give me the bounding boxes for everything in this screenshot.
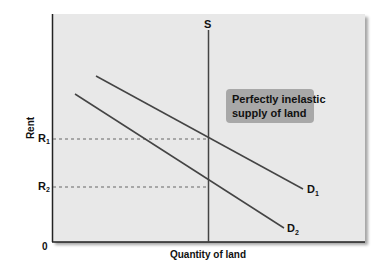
r1-label: R1	[38, 132, 50, 145]
annotation-line-2: supply of land	[232, 107, 307, 119]
r2-label: R2	[38, 180, 50, 193]
y-axis-title: Rent	[25, 116, 36, 139]
supply-label: S	[204, 18, 211, 30]
origin-label: 0	[42, 241, 48, 252]
x-axis-title: Quantity of land	[170, 249, 246, 260]
chart: Perfectly inelastic supply of land S D1 …	[0, 0, 386, 278]
annotation-line-1: Perfectly inelastic	[232, 93, 326, 105]
